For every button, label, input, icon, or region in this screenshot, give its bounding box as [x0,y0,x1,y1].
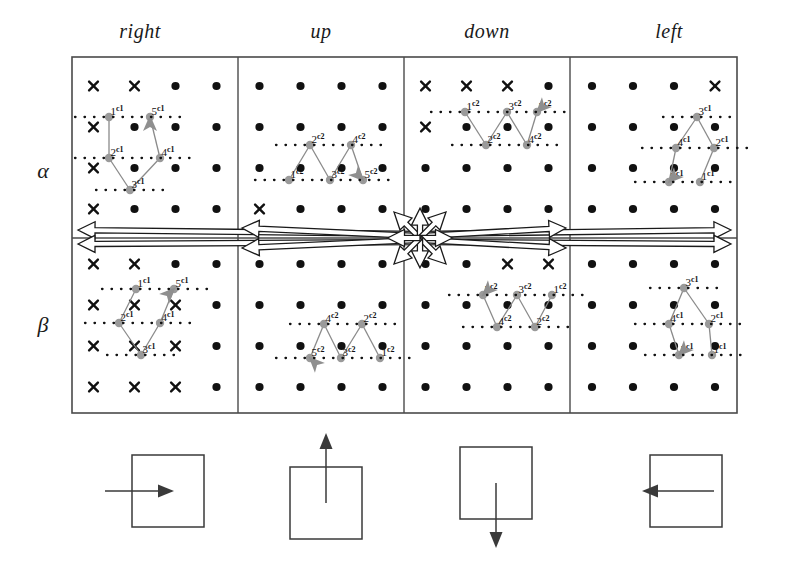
lattice-cross [171,301,180,310]
path-segment [709,324,712,355]
path-node-label: 4c1 [162,310,175,323]
lattice-dot [421,164,429,172]
lattice-dot [212,123,220,131]
lattice-dot [711,205,719,213]
path-node-label: 2c1 [716,135,729,148]
figure-canvas: 1c12c13c14c15c11c22c23c24c25c21c22c23c24… [0,0,799,569]
lattice-dot [629,342,637,350]
path-node-label: 1c2 [467,99,480,112]
lattice-dot [421,301,429,309]
lattice-dot [337,301,345,309]
lattice-dot [130,164,138,172]
path-node-label: 1c1 [138,276,151,289]
lattice-dot [378,82,386,90]
lattice-dot [212,301,220,309]
lattice-dot [296,260,304,268]
lattice-dot [462,123,470,131]
path-node-label: 4c2 [499,314,512,327]
lattice-cross [89,260,98,269]
path-node-label: 4c1 [678,135,691,148]
path-node-label: 2c2 [488,132,501,145]
lattice-dot [462,260,470,268]
lattice-dot [588,205,596,213]
lattice-cross [89,82,98,91]
path-node-label: 5c2 [312,345,325,358]
lattice-dot [212,383,220,391]
lattice-dot [629,383,637,391]
lattice-dot [588,383,596,391]
path-node-label: 3c1 [699,104,712,117]
lattice-dot [255,383,263,391]
path-node-label: 5c1 [152,104,165,117]
lattice-dot [588,260,596,268]
lattice-dot [255,301,263,309]
lattice-dot [629,260,637,268]
lattice-dot [337,383,345,391]
lattice-cross [130,301,139,310]
lattice-dot [670,123,678,131]
path-node-label: 2c1 [121,310,134,323]
lattice-dot [421,342,429,350]
lattice-dot [503,164,511,172]
path-node-label: 3c2 [343,345,356,358]
lattice-dot [337,123,345,131]
lattice-dot [296,123,304,131]
lattice-dot [171,164,179,172]
lattice-dot [378,301,386,309]
lattice-dot [130,123,138,131]
lattice-dot [296,205,304,213]
path-node-label: 3c1 [686,275,699,288]
lattice-cross [130,82,139,91]
lattice-dot [378,164,386,172]
path-node-label: 4c1 [162,145,175,158]
lattice-dot [462,342,470,350]
lattice-cross [171,383,180,392]
lattice-dot [296,383,304,391]
path-segment [310,145,330,180]
lattice-dot [670,82,678,90]
legend-arrow-up-head [320,433,333,449]
lattice-dot [503,342,511,350]
lattice-dot [212,260,220,268]
lattice-cross [544,260,553,269]
path-node-label: 2c1 [111,145,124,158]
lattice-dot [378,260,386,268]
lattice-dot [629,205,637,213]
legend-arrow-right-head [158,485,174,498]
lattice-dot [421,205,429,213]
lattice-cross [711,82,720,91]
path-node-label: 1c2 [554,282,567,295]
lattice-dot [255,123,263,131]
path-node-label: 3c2 [509,99,522,112]
path-node-label: 1c1 [714,342,727,355]
lattice-dot [337,205,345,213]
lattice-dot [629,82,637,90]
lattice-cross [130,383,139,392]
path-node-label: 2c2 [537,314,550,327]
lattice-dot [544,342,552,350]
lattice-dot [171,82,179,90]
lattice-dot [670,260,678,268]
lattice-dot [337,260,345,268]
lattice-dot [378,383,386,391]
path-node-label: 4c1 [671,311,684,324]
lattice-dot [670,383,678,391]
lattice-dot [629,123,637,131]
lattice-cross [171,342,180,351]
lattice-dot [544,82,552,90]
lattice-dot [255,164,263,172]
path-node-label: 3c1 [143,342,156,355]
lattice-dot [255,260,263,268]
lattice-dot [711,301,719,309]
lattice-dot [171,260,179,268]
lattice-dot [171,123,179,131]
lattice-dot [711,260,719,268]
lattice-dot [503,123,511,131]
path-segment [483,295,497,327]
lattice-dot [462,164,470,172]
lattice-dot [130,205,138,213]
path-node-label: 3c2 [332,167,345,180]
path-node-label: 5c2 [365,167,378,180]
path-node-label: 4c2 [353,132,366,145]
lattice-cross [89,301,98,310]
